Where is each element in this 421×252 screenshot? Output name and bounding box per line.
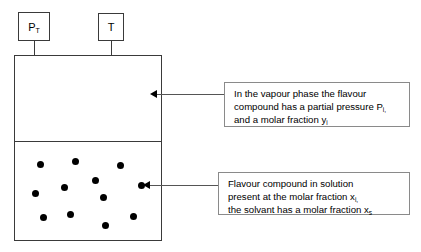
sensor-label-temperature: T: [108, 21, 115, 33]
callout-solution-sub-3: s: [369, 209, 372, 216]
callout-solution-line-3: the solvant has a molar fraction xs: [228, 204, 409, 218]
sensor-stem-total-pressure: [34, 41, 35, 56]
liquid-surface-line: [14, 141, 162, 142]
leader-line-solution: [148, 185, 218, 186]
callout-vapour-phase: In the vapour phase the flavour compound…: [224, 82, 410, 127]
particle-dot: [117, 162, 124, 169]
arrow-head-solution-icon: [143, 181, 150, 189]
particle-dot: [37, 161, 44, 168]
sensor-box-total-pressure: PT: [18, 12, 50, 41]
particle-dot: [92, 177, 99, 184]
particle-dot: [102, 222, 109, 229]
particle-dot: [40, 214, 47, 221]
callout-solution: Flavour compound in solution present at …: [218, 172, 410, 215]
sensor-subscript-total-pressure: T: [36, 27, 40, 34]
callout-solution-line-2: present at the molar fraction xi,: [228, 191, 409, 205]
particle-dot: [100, 194, 107, 201]
sensor-label-total-pressure: PT: [28, 21, 40, 33]
leader-line-vapour: [156, 94, 224, 95]
sensor-box-temperature: T: [98, 13, 124, 41]
callout-vapour-line-3: and a molar fraction yi: [234, 114, 409, 128]
particle-dot: [32, 190, 39, 197]
particle-dot: [67, 211, 74, 218]
callout-solution-line-1: Flavour compound in solution: [228, 178, 409, 191]
particle-dot: [130, 213, 137, 220]
particle-dot: [61, 184, 68, 191]
particle-dot: [72, 158, 79, 165]
callout-vapour-line-1: In the vapour phase the flavour: [234, 88, 409, 101]
callout-solution-sub-2: i,: [355, 196, 358, 203]
diagram-canvas: PT T In the vapour phase the flavour com…: [0, 0, 421, 252]
sensor-stem-temperature: [111, 41, 112, 56]
callout-vapour-sub-3: i: [326, 119, 327, 126]
callout-vapour-sub-2: i,: [383, 106, 386, 113]
callout-vapour-line-2: compound has a partial pressure Pi,: [234, 101, 409, 115]
arrow-head-vapour-icon: [150, 90, 157, 98]
vessel-container: [14, 55, 162, 241]
